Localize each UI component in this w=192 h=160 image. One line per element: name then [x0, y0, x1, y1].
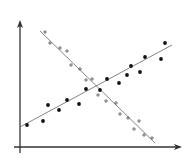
dot-marker [65, 98, 69, 102]
dot-marker [159, 57, 163, 61]
dot-marker [25, 123, 29, 127]
plus-marker [137, 119, 141, 123]
dot-marker [84, 87, 88, 91]
plus-marker [78, 67, 82, 71]
plus-marker [43, 30, 47, 34]
dot-marker [129, 64, 133, 68]
dot-marker [98, 88, 102, 92]
dot-marker [41, 119, 45, 123]
dot-marker [57, 108, 61, 112]
scatter-chart [0, 0, 192, 160]
chart-axes [14, 20, 182, 153]
plus-marker [65, 49, 69, 53]
plus-marker [84, 78, 88, 82]
dot-marker [105, 77, 109, 81]
dot-marker [125, 73, 129, 77]
crosses-trend-line [40, 31, 155, 143]
plus-marker [104, 99, 108, 103]
plus-marker [96, 93, 100, 97]
plus-marker [150, 136, 154, 140]
dot-marker [117, 81, 121, 85]
trend-lines [20, 31, 172, 143]
dot-marker [163, 41, 167, 45]
plus-marker [126, 116, 130, 120]
plus-marker [118, 112, 122, 116]
plus-marker [114, 101, 118, 105]
dot-marker [46, 103, 50, 107]
dot-marker [77, 102, 81, 106]
dot-marker [138, 70, 142, 74]
dot-marker [143, 55, 147, 59]
plus-marker [69, 63, 73, 67]
plus-marker [132, 127, 136, 131]
